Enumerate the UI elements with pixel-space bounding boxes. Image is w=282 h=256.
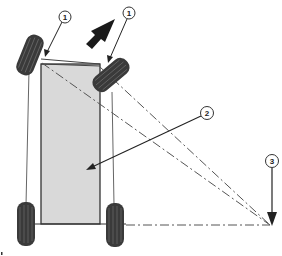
- rear-left-wheel: [17, 202, 35, 246]
- callout-2-label: 2: [205, 109, 210, 118]
- corner-mark: [1, 252, 3, 255]
- vehicle-body: [41, 64, 100, 224]
- callout-1a: 1: [44, 11, 71, 57]
- rear-right-wheel: [106, 203, 124, 247]
- callout-3-label: 3: [270, 157, 275, 166]
- callout-1b: 1: [107, 7, 135, 63]
- direction-arrow-icon: [86, 19, 115, 49]
- callout-1a-label: 1: [63, 13, 68, 22]
- callout-3: 3: [266, 155, 279, 227]
- steering-geometry-diagram: 1 1 2 3: [0, 0, 282, 256]
- callout-1b-label: 1: [127, 9, 132, 18]
- callout-2: 2: [86, 107, 214, 171]
